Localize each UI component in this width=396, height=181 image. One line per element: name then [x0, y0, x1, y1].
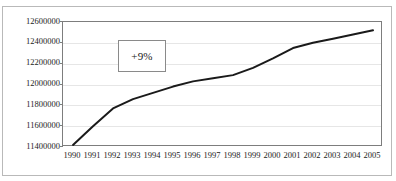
growth-annotation-box: +9%: [118, 40, 166, 72]
y-axis-tick-label: 12000000: [4, 79, 60, 88]
plot-area: [62, 21, 382, 146]
growth-annotation-label: +9%: [131, 50, 152, 62]
y-axis-tick-label: 11800000: [4, 100, 60, 109]
chart-figure: 1260000012400000122000001200000011800000…: [0, 0, 396, 181]
y-axis-tick-label: 12200000: [4, 58, 60, 67]
y-axis-tick-label: 11600000: [4, 121, 60, 130]
y-axis-tick-label: 12400000: [4, 37, 60, 46]
y-axis-tick-label: 12600000: [4, 17, 60, 26]
x-axis-tick-label: 2005: [360, 150, 384, 161]
line-series-svg: [63, 22, 383, 147]
y-axis-tick-label: 11400000: [4, 142, 60, 151]
y-axis: 1260000012400000122000001200000011800000…: [2, 21, 60, 146]
x-axis: 1990199119921993199419951996199719981999…: [62, 150, 382, 164]
